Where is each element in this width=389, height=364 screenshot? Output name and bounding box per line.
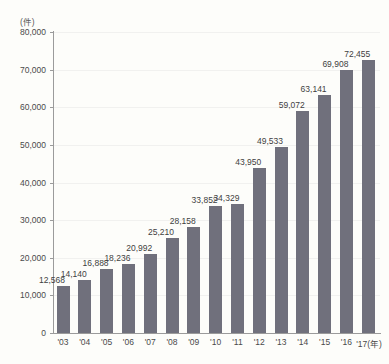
bar[interactable] bbox=[340, 70, 353, 333]
bar[interactable] bbox=[57, 286, 70, 333]
x-axis-tick-label: '04 bbox=[73, 337, 97, 347]
x-axis-tick-label: '09 bbox=[182, 337, 206, 347]
x-axis-tick-label: '15 bbox=[313, 337, 337, 347]
bar[interactable] bbox=[209, 206, 222, 333]
y-axis-tick-label: 70,000 bbox=[0, 65, 46, 75]
x-axis-line bbox=[53, 333, 381, 334]
bar-value-label: 28,158 bbox=[164, 216, 196, 226]
y-axis-tick-label: 50,000 bbox=[0, 140, 46, 150]
y-axis-tick-label: 20,000 bbox=[0, 253, 46, 263]
bar[interactable] bbox=[78, 280, 91, 333]
bar[interactable] bbox=[122, 264, 135, 333]
bar-value-label: 59,072 bbox=[273, 100, 305, 110]
x-axis-tick-label: '03 bbox=[51, 337, 75, 347]
bar-value-label: 18,236 bbox=[98, 253, 130, 263]
bar-value-label: 49,533 bbox=[251, 136, 283, 146]
y-axis-tick-label: 60,000 bbox=[0, 102, 46, 112]
y-axis-tick-label: 40,000 bbox=[0, 178, 46, 188]
x-axis-tick-label: '05 bbox=[95, 337, 119, 347]
x-axis-tick-label: '13 bbox=[269, 337, 293, 347]
bar[interactable] bbox=[318, 95, 331, 333]
bar-value-label: 69,908 bbox=[316, 59, 348, 69]
bar[interactable] bbox=[144, 254, 157, 333]
y-axis-tick-label: 80,000 bbox=[0, 27, 46, 37]
x-axis-tick-label: '07 bbox=[138, 337, 162, 347]
bar-value-label: 14,140 bbox=[55, 269, 87, 279]
bar[interactable] bbox=[100, 269, 113, 333]
y-axis-tick-label: 10,000 bbox=[0, 290, 46, 300]
bar-chart: (件) 010,00020,00030,00040,00050,00060,00… bbox=[0, 0, 389, 364]
x-axis-tick-label: '10 bbox=[204, 337, 228, 347]
y-axis-tick-label: 0 bbox=[0, 328, 46, 338]
bar[interactable] bbox=[362, 60, 375, 333]
x-axis-tick-label: '06 bbox=[116, 337, 140, 347]
bar[interactable] bbox=[253, 168, 266, 333]
bar-value-label: 72,455 bbox=[338, 49, 370, 59]
bar-value-label: 34,329 bbox=[207, 193, 239, 203]
y-axis-tick-label: 30,000 bbox=[0, 215, 46, 225]
bar-value-label: 63,141 bbox=[295, 84, 327, 94]
x-axis-tick-label: '17(年) bbox=[356, 337, 389, 349]
bar[interactable] bbox=[275, 147, 288, 333]
x-axis-tick-label: '16 bbox=[334, 337, 358, 347]
plot-area bbox=[53, 32, 380, 333]
bar[interactable] bbox=[166, 238, 179, 333]
bar-value-label: 20,992 bbox=[120, 243, 152, 253]
x-axis-tick-label: '11 bbox=[225, 337, 249, 347]
bar[interactable] bbox=[187, 227, 200, 333]
x-axis-tick-label: '08 bbox=[160, 337, 184, 347]
bar-value-label: 43,950 bbox=[229, 157, 261, 167]
bar[interactable] bbox=[231, 204, 244, 333]
bar-value-label: 25,210 bbox=[142, 227, 174, 237]
bar[interactable] bbox=[296, 111, 309, 333]
x-axis-tick-label: '12 bbox=[247, 337, 271, 347]
x-axis-tick-label: '14 bbox=[291, 337, 315, 347]
y-axis-unit-label: (件) bbox=[20, 15, 35, 27]
